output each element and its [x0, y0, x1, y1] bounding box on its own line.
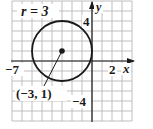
y-tick-4: 4 [83, 14, 90, 29]
radius-label: r = 3 [21, 4, 48, 19]
center-label: (−3, 1) [16, 86, 52, 101]
x-tick-neg7: −7 [5, 62, 19, 77]
y-axis-label: y [94, 0, 102, 14]
coordinate-plane: r = 3 y 4 −7 2 x (−3, 1) −4 [0, 0, 153, 129]
x-axis-label: x [122, 61, 130, 76]
x-tick-2: 2 [109, 62, 116, 77]
y-tick-neg4: −4 [72, 94, 86, 109]
